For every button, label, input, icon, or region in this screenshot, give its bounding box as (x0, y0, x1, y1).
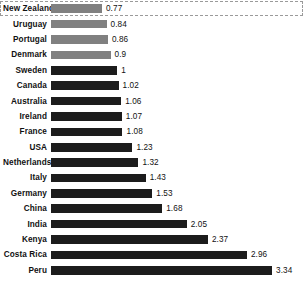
bar-category-label: Australia (3, 97, 51, 106)
bar-track: 1 (51, 63, 303, 78)
bar-category-label: USA (3, 143, 51, 152)
bar (51, 174, 146, 183)
bar-value-label: 1 (121, 66, 126, 75)
bar-value-label: 2.05 (191, 220, 207, 229)
bar-value-label: 1.23 (136, 143, 152, 152)
bar-track: 0.84 (51, 16, 303, 31)
bar-row[interactable]: USA1.23 (0, 140, 303, 155)
bar-track: 0.77 (51, 2, 302, 15)
bar-category-label: Uruguay (3, 20, 51, 29)
bar-track: 1.32 (51, 155, 303, 170)
bar-chart-rows: New Zealand0.77Uruguay0.84Portugal0.86De… (0, 1, 303, 278)
bar (51, 204, 162, 213)
bar-track: 2.96 (51, 247, 303, 262)
bar (51, 66, 117, 75)
bar-track: 1.07 (51, 109, 303, 124)
bar (51, 112, 122, 121)
bar-row[interactable]: Australia1.06 (0, 93, 303, 108)
bar-value-label: 1.53 (156, 189, 172, 198)
bar-row[interactable]: New Zealand0.77 (0, 1, 303, 16)
bar (51, 97, 121, 106)
bar-row[interactable]: India2.05 (0, 216, 303, 231)
bar-category-label: Canada (3, 81, 51, 90)
bar (51, 128, 122, 137)
bar-row[interactable]: Costa Rica2.96 (0, 247, 303, 262)
bar (51, 4, 102, 13)
bar-chart: New Zealand0.77Uruguay0.84Portugal0.86De… (0, 0, 303, 294)
bar-value-label: 1.68 (166, 204, 182, 213)
bar-track: 1.08 (51, 124, 303, 139)
bar-row[interactable]: Portugal0.86 (0, 32, 303, 47)
bar-row[interactable]: Netherlands1.32 (0, 155, 303, 170)
bar-track: 0.9 (51, 47, 303, 62)
bar-value-label: 0.77 (106, 4, 122, 13)
bar-row[interactable]: Sweden1 (0, 63, 303, 78)
bar (51, 235, 208, 244)
bar (51, 143, 132, 152)
bar-value-label: 0.9 (115, 50, 127, 59)
bar-category-label: Sweden (3, 66, 51, 75)
bar-category-label: France (3, 127, 51, 136)
bar-category-label: Germany (3, 189, 51, 198)
bar-track: 3.34 (51, 263, 303, 278)
bar-category-label: China (3, 204, 51, 213)
bar (51, 158, 138, 167)
bar-category-label: Peru (3, 266, 51, 275)
bar (51, 251, 247, 260)
bar-value-label: 1.07 (126, 112, 142, 121)
bar-value-label: 1.43 (150, 173, 166, 182)
bar (51, 189, 152, 198)
bar-category-label: Costa Rica (3, 250, 51, 259)
bar-row[interactable]: China1.68 (0, 201, 303, 216)
bar-category-label: Ireland (3, 112, 51, 121)
bar-category-label: Kenya (3, 235, 51, 244)
bar-category-label: India (3, 220, 51, 229)
bar-track: 1.68 (51, 201, 303, 216)
bar-row[interactable]: France1.08 (0, 124, 303, 139)
bar (51, 20, 107, 29)
bar-value-label: 1.32 (142, 158, 158, 167)
bar-track: 0.86 (51, 32, 303, 47)
bar-row[interactable]: Denmark0.9 (0, 47, 303, 62)
bar-row[interactable]: Italy1.43 (0, 170, 303, 185)
bar-track: 1.53 (51, 186, 303, 201)
bar-value-label: 0.86 (112, 35, 128, 44)
bar-row[interactable]: Ireland1.07 (0, 109, 303, 124)
bar-track: 2.05 (51, 216, 303, 231)
bar-row[interactable]: Canada1.02 (0, 78, 303, 93)
bar-value-label: 2.96 (251, 250, 267, 259)
bar-track: 2.37 (51, 232, 303, 247)
bar-row[interactable]: Kenya2.37 (0, 232, 303, 247)
bar-row[interactable]: Germany1.53 (0, 186, 303, 201)
bar-row[interactable]: Peru3.34 (0, 263, 303, 278)
bar-track: 1.43 (51, 170, 303, 185)
bar-value-label: 0.84 (111, 20, 127, 29)
bar (51, 81, 119, 90)
bar-value-label: 1.08 (126, 127, 142, 136)
bar-track: 1.02 (51, 78, 303, 93)
bar-category-label: Denmark (3, 50, 51, 59)
bar-category-label: Netherlands (3, 158, 51, 167)
bar-value-label: 3.34 (276, 266, 292, 275)
bar-value-label: 1.06 (125, 97, 141, 106)
bar-category-label: New Zealand (3, 4, 51, 13)
bar-value-label: 1.02 (123, 81, 139, 90)
bar-track: 1.23 (51, 140, 303, 155)
bar (51, 266, 272, 275)
bar-value-label: 2.37 (212, 235, 228, 244)
bar-track: 1.06 (51, 93, 303, 108)
bar-category-label: Portugal (3, 35, 51, 44)
bar (51, 35, 108, 44)
bar (51, 51, 111, 60)
bar-row[interactable]: Uruguay0.84 (0, 16, 303, 31)
bar-category-label: Italy (3, 173, 51, 182)
bar (51, 220, 187, 229)
